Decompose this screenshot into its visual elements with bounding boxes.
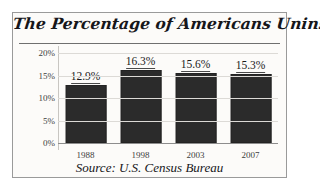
title-divider [19, 43, 280, 44]
y-axis-tick-label: 5% [43, 116, 55, 126]
gridline [58, 98, 278, 99]
bar [65, 85, 106, 143]
source-note: Source: U.S. Census Bureau [13, 160, 286, 176]
axis-baseline [58, 143, 278, 144]
y-axis-tick-label: 0% [43, 138, 55, 148]
y-axis: 20%15%10%5%0% [13, 46, 58, 150]
bar-value-label: 12.9% [71, 70, 101, 84]
bar [120, 70, 161, 143]
x-axis-tick-label: 1988 [58, 150, 113, 160]
title-block: The Percentage of Americans Uninsured [13, 13, 286, 44]
y-axis-tick-label: 15% [39, 71, 56, 81]
x-axis-tick-label: 2003 [168, 150, 223, 160]
x-axis-tick-label: 1998 [113, 150, 168, 160]
y-axis-tick-label: 10% [39, 93, 56, 103]
bar-value-label: 16.3% [126, 55, 156, 69]
bar-value-label: 15.6% [181, 58, 211, 72]
gridline [58, 53, 278, 54]
gridline [58, 76, 278, 77]
chart-title: The Percentage of Americans Uninsured [12, 14, 287, 33]
chart-figure: The Percentage of Americans Uninsured 20… [12, 12, 287, 178]
x-axis-tick-label: 2007 [223, 150, 278, 160]
bar [230, 74, 271, 143]
plot-area: 20%15%10%5%0% 12.9%16.3%15.6%15.3% [13, 46, 286, 150]
bar [175, 73, 216, 143]
bar-value-label: 15.3% [236, 59, 266, 73]
gridline [58, 121, 278, 122]
y-axis-tick-label: 20% [39, 48, 56, 58]
